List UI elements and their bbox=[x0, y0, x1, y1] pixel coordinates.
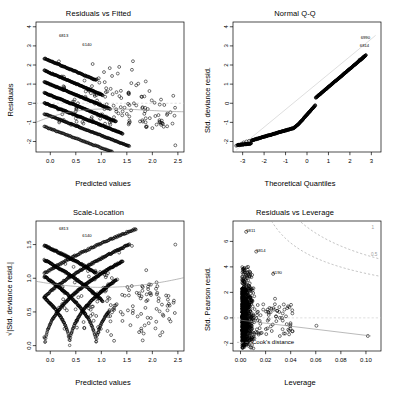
y-tick-label: 0 bbox=[224, 101, 230, 105]
y-tick-label: -2 bbox=[224, 340, 230, 346]
y-axis-label: Residuals bbox=[6, 83, 15, 116]
point-label: 6813 bbox=[59, 33, 69, 38]
diagnostic-plot-figure: Residuals vs Fitted 0.00.51.01.52.02.543… bbox=[0, 0, 393, 398]
x-axis-label: Predicted values bbox=[75, 378, 131, 387]
x-tick-label: 0.04 bbox=[285, 357, 297, 363]
point-label: 6814 bbox=[360, 43, 370, 48]
point-label: 6814 bbox=[256, 248, 266, 253]
y-tick-label: 0 bbox=[27, 101, 33, 105]
point-label: 6811 bbox=[246, 228, 256, 233]
point-label: 6140 bbox=[82, 233, 92, 238]
y-tick-label: 0.5 bbox=[27, 307, 33, 316]
x-tick-label: 2.5 bbox=[174, 357, 183, 363]
point-label: 6140 bbox=[82, 42, 92, 47]
x-axis-label: Theoretical Quantiles bbox=[265, 179, 336, 188]
point-label: 6813 bbox=[59, 226, 69, 231]
y-tick-label: 1 bbox=[224, 82, 230, 86]
plot-area-residuals-vs-leverage: 0.000.020.040.060.080.106420-210.5681168… bbox=[197, 199, 393, 398]
panel-normal-qq: Normal Q-Q -3-2-1012343210-1-269906814 T… bbox=[197, 0, 393, 199]
plot-area-residuals-vs-fitted: 0.00.51.01.52.02.543210-1-268136140 Pred… bbox=[0, 0, 197, 199]
point-label: 0.5 bbox=[371, 252, 378, 257]
x-tick-label: 2.0 bbox=[148, 357, 157, 363]
panel-title: Scale-Location bbox=[0, 208, 197, 217]
plot-area-normal-qq: -3-2-1012343210-1-269906814 Theoretical … bbox=[197, 0, 393, 199]
x-tick-label: 1.0 bbox=[97, 158, 106, 164]
y-tick-label: 6 bbox=[224, 239, 230, 243]
y-tick-label: 2 bbox=[27, 63, 33, 67]
cooks-distance-legend-label: Cook's distance bbox=[252, 339, 295, 345]
x-tick-label: -3 bbox=[240, 158, 246, 164]
x-tick-label: 0.10 bbox=[360, 357, 372, 363]
y-axis-label: Std. deviance resid. bbox=[203, 67, 212, 133]
x-tick-label: -1 bbox=[283, 158, 289, 164]
point-label: 6990 bbox=[361, 35, 371, 40]
y-axis-label: √|Std. deviance resid.| bbox=[5, 262, 14, 336]
panel-residuals-vs-leverage: Residuals vs Leverage 0.000.020.040.060.… bbox=[197, 199, 393, 398]
y-axis-label: Std. Pearson resid. bbox=[203, 267, 212, 331]
x-tick-label: 1.5 bbox=[123, 357, 132, 363]
point-label: 6190 bbox=[272, 270, 282, 275]
x-tick-label: 0.06 bbox=[310, 357, 322, 363]
y-tick-label: 4 bbox=[27, 24, 33, 28]
x-tick-label: 0.0 bbox=[46, 357, 55, 363]
x-tick-label: 0.02 bbox=[260, 357, 272, 363]
panel-scale-location: Scale-Location 0.00.51.01.52.02.50.00.51… bbox=[0, 199, 197, 398]
y-tick-label: -2 bbox=[27, 138, 33, 144]
panel-title: Residuals vs Leverage bbox=[197, 208, 393, 217]
x-tick-label: 0.08 bbox=[335, 357, 347, 363]
panel-residuals-vs-fitted: Residuals vs Fitted 0.00.51.01.52.02.543… bbox=[0, 0, 197, 199]
x-axis-label: Leverage bbox=[284, 378, 315, 387]
x-tick-label: 0 bbox=[305, 158, 309, 164]
y-tick-label: 1 bbox=[27, 82, 33, 86]
x-tick-label: 0.5 bbox=[72, 158, 81, 164]
x-tick-label: 1 bbox=[327, 158, 331, 164]
panel-title: Normal Q-Q bbox=[197, 9, 393, 18]
y-tick-label: 2 bbox=[224, 63, 230, 67]
y-tick-label: 3 bbox=[224, 44, 230, 48]
x-tick-label: 1.0 bbox=[97, 357, 106, 363]
x-tick-label: 2.0 bbox=[148, 158, 157, 164]
y-tick-label: 2 bbox=[224, 290, 230, 294]
y-tick-label: -1 bbox=[27, 119, 33, 125]
y-tick-label: 0.0 bbox=[27, 341, 33, 350]
x-tick-label: 2.5 bbox=[174, 158, 183, 164]
point-label: 1 bbox=[372, 225, 375, 230]
x-tick-label: 1.5 bbox=[123, 158, 132, 164]
x-tick-label: -2 bbox=[261, 158, 267, 164]
y-tick-label: 1.5 bbox=[27, 240, 33, 249]
y-tick-label: 3 bbox=[27, 44, 33, 48]
plot-area-scale-location: 0.00.51.01.52.02.50.00.51.01.568136140 P… bbox=[0, 199, 197, 398]
x-tick-label: 0.5 bbox=[72, 357, 81, 363]
y-tick-label: 4 bbox=[224, 265, 230, 269]
x-tick-label: 0.0 bbox=[46, 158, 55, 164]
x-tick-label: 2 bbox=[348, 158, 352, 164]
y-tick-label: 0 bbox=[224, 316, 230, 320]
panel-title: Residuals vs Fitted bbox=[0, 9, 197, 18]
x-tick-label: 3 bbox=[370, 158, 374, 164]
y-tick-label: 4 bbox=[224, 24, 230, 28]
x-tick-label: 0.00 bbox=[235, 357, 247, 363]
x-axis-label: Predicted values bbox=[75, 179, 131, 188]
y-tick-label: -1 bbox=[224, 119, 230, 125]
y-tick-label: 1.0 bbox=[27, 273, 33, 282]
y-tick-label: -2 bbox=[224, 138, 230, 144]
